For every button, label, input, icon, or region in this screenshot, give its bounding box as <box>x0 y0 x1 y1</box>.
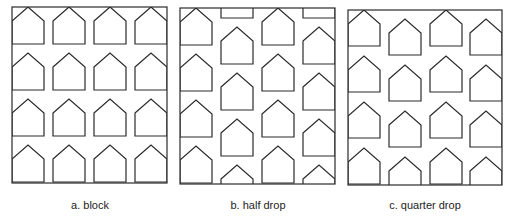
house-motif <box>430 148 462 184</box>
caption-quarter-drop: c. quarter drop <box>345 199 505 211</box>
house-motif <box>135 99 167 136</box>
house-motif <box>470 65 502 101</box>
house-motif <box>180 146 212 183</box>
repeat-pattern-diagram <box>0 0 509 218</box>
house-motif <box>53 145 85 182</box>
house-motif <box>262 100 294 137</box>
panel-quarter-drop <box>348 10 502 193</box>
house-motif <box>348 10 380 46</box>
house-motif <box>262 146 294 183</box>
panel-half-drop <box>180 0 335 202</box>
house-motif <box>348 56 380 92</box>
house-motif <box>303 73 335 110</box>
house-motif <box>389 65 421 101</box>
house-motif <box>221 73 253 110</box>
house-motif <box>135 145 167 182</box>
house-motif <box>180 54 212 91</box>
house-motif <box>180 8 212 45</box>
panel-block <box>12 7 167 183</box>
house-motif <box>12 99 44 136</box>
house-motif <box>94 99 126 136</box>
house-motif <box>303 119 335 156</box>
caption-half-drop: b. half drop <box>178 199 338 211</box>
house-motif <box>12 145 44 182</box>
house-motif <box>389 19 421 55</box>
house-motif <box>430 102 462 138</box>
house-motif <box>348 148 380 184</box>
house-motif <box>180 100 212 137</box>
house-motif <box>12 53 44 90</box>
house-motif <box>389 157 421 193</box>
house-motif <box>53 99 85 136</box>
house-motif <box>94 145 126 182</box>
house-motif <box>430 10 462 46</box>
house-motif <box>262 54 294 91</box>
house-motif <box>221 119 253 156</box>
house-motif <box>12 7 44 44</box>
house-motif <box>135 53 167 90</box>
house-motif <box>221 27 253 64</box>
house-motif <box>94 53 126 90</box>
house-motif <box>262 8 294 45</box>
house-motif <box>94 7 126 44</box>
house-motif <box>53 7 85 44</box>
house-motif <box>470 19 502 55</box>
house-motif <box>430 56 462 92</box>
house-motif <box>303 27 335 64</box>
house-motif <box>135 7 167 44</box>
house-motif <box>470 157 502 193</box>
caption-block: a. block <box>10 199 170 211</box>
house-motif <box>470 111 502 147</box>
house-motif <box>53 53 85 90</box>
house-motif <box>389 111 421 147</box>
house-motif <box>348 102 380 138</box>
house-motif <box>221 0 253 18</box>
house-motif <box>303 0 335 18</box>
